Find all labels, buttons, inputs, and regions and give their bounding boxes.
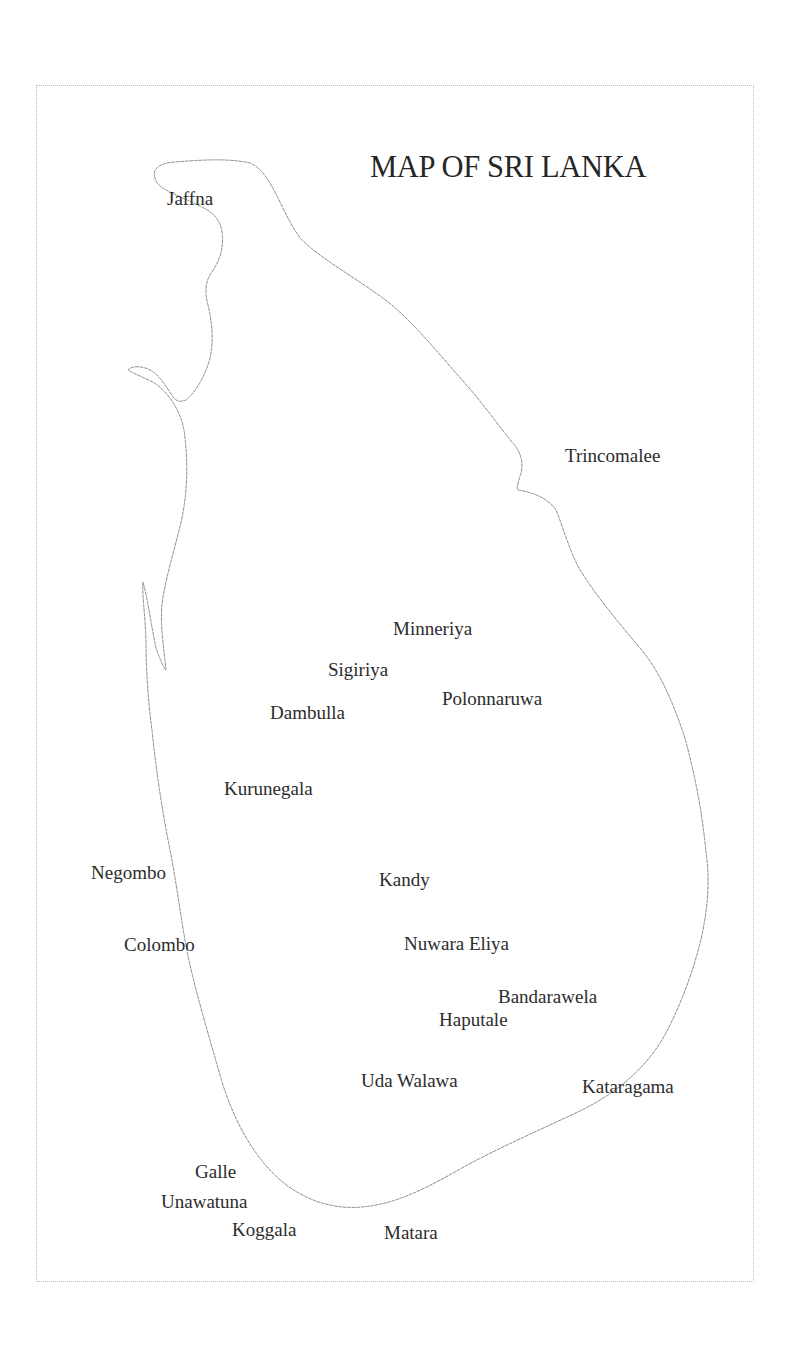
place-label-nuwara-eliya: Nuwara Eliya	[404, 934, 509, 953]
place-label-trincomalee: Trincomalee	[565, 446, 660, 465]
place-label-uda-walawa: Uda Walawa	[361, 1071, 458, 1090]
place-label-unawatuna: Unawatuna	[161, 1192, 248, 1211]
place-label-minneriya: Minneriya	[393, 619, 472, 638]
place-label-colombo: Colombo	[124, 935, 195, 954]
place-label-galle: Galle	[195, 1162, 236, 1181]
place-label-negombo: Negombo	[91, 863, 166, 882]
place-label-kandy: Kandy	[379, 870, 430, 889]
place-label-haputale: Haputale	[439, 1010, 508, 1029]
place-label-dambulla: Dambulla	[270, 703, 345, 722]
place-label-sigiriya: Sigiriya	[328, 660, 388, 679]
place-label-jaffna: Jaffna	[167, 189, 213, 208]
map-title: MAP OF SRI LANKA	[370, 152, 646, 183]
map-frame	[36, 85, 754, 1282]
place-label-kurunegala: Kurunegala	[224, 779, 313, 798]
place-label-polonnaruwa: Polonnaruwa	[442, 689, 542, 708]
place-label-matara: Matara	[384, 1223, 438, 1242]
place-label-kataragama: Kataragama	[582, 1077, 674, 1096]
place-label-bandarawela: Bandarawela	[498, 987, 597, 1006]
place-label-koggala: Koggala	[232, 1220, 296, 1239]
